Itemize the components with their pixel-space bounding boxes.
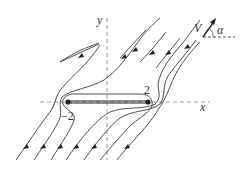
streamline (140, 32, 166, 62)
streamline (120, 30, 146, 58)
arrow-icon (73, 144, 79, 149)
arrow-icon (57, 144, 63, 149)
plate-left-endpoint (65, 99, 70, 104)
plate-left-label: −2 (61, 109, 74, 123)
streamline (34, 18, 160, 160)
arrow-icon (124, 144, 130, 149)
streamline-surface (51, 94, 152, 160)
streamline (84, 40, 196, 160)
streamline (60, 44, 99, 62)
angle-label: α (217, 23, 224, 37)
arrow-icon (40, 144, 46, 149)
x-axis-label: x (199, 100, 206, 114)
flow-diagram: y x −2 2 V α (0, 0, 240, 171)
angle-arc (210, 29, 213, 37)
velocity-label: V (194, 21, 203, 35)
plate-right-endpoint (145, 99, 150, 104)
arrow-icon (184, 44, 190, 49)
streamline (66, 20, 200, 160)
arrow-icon (210, 18, 216, 25)
arrow-icon (23, 144, 29, 149)
y-axis-label: y (96, 13, 103, 27)
freestream-indicator: V α (194, 18, 235, 37)
plate-right-label: 2 (144, 83, 150, 97)
arrow-icon (91, 144, 97, 149)
streamlines (16, 18, 200, 160)
